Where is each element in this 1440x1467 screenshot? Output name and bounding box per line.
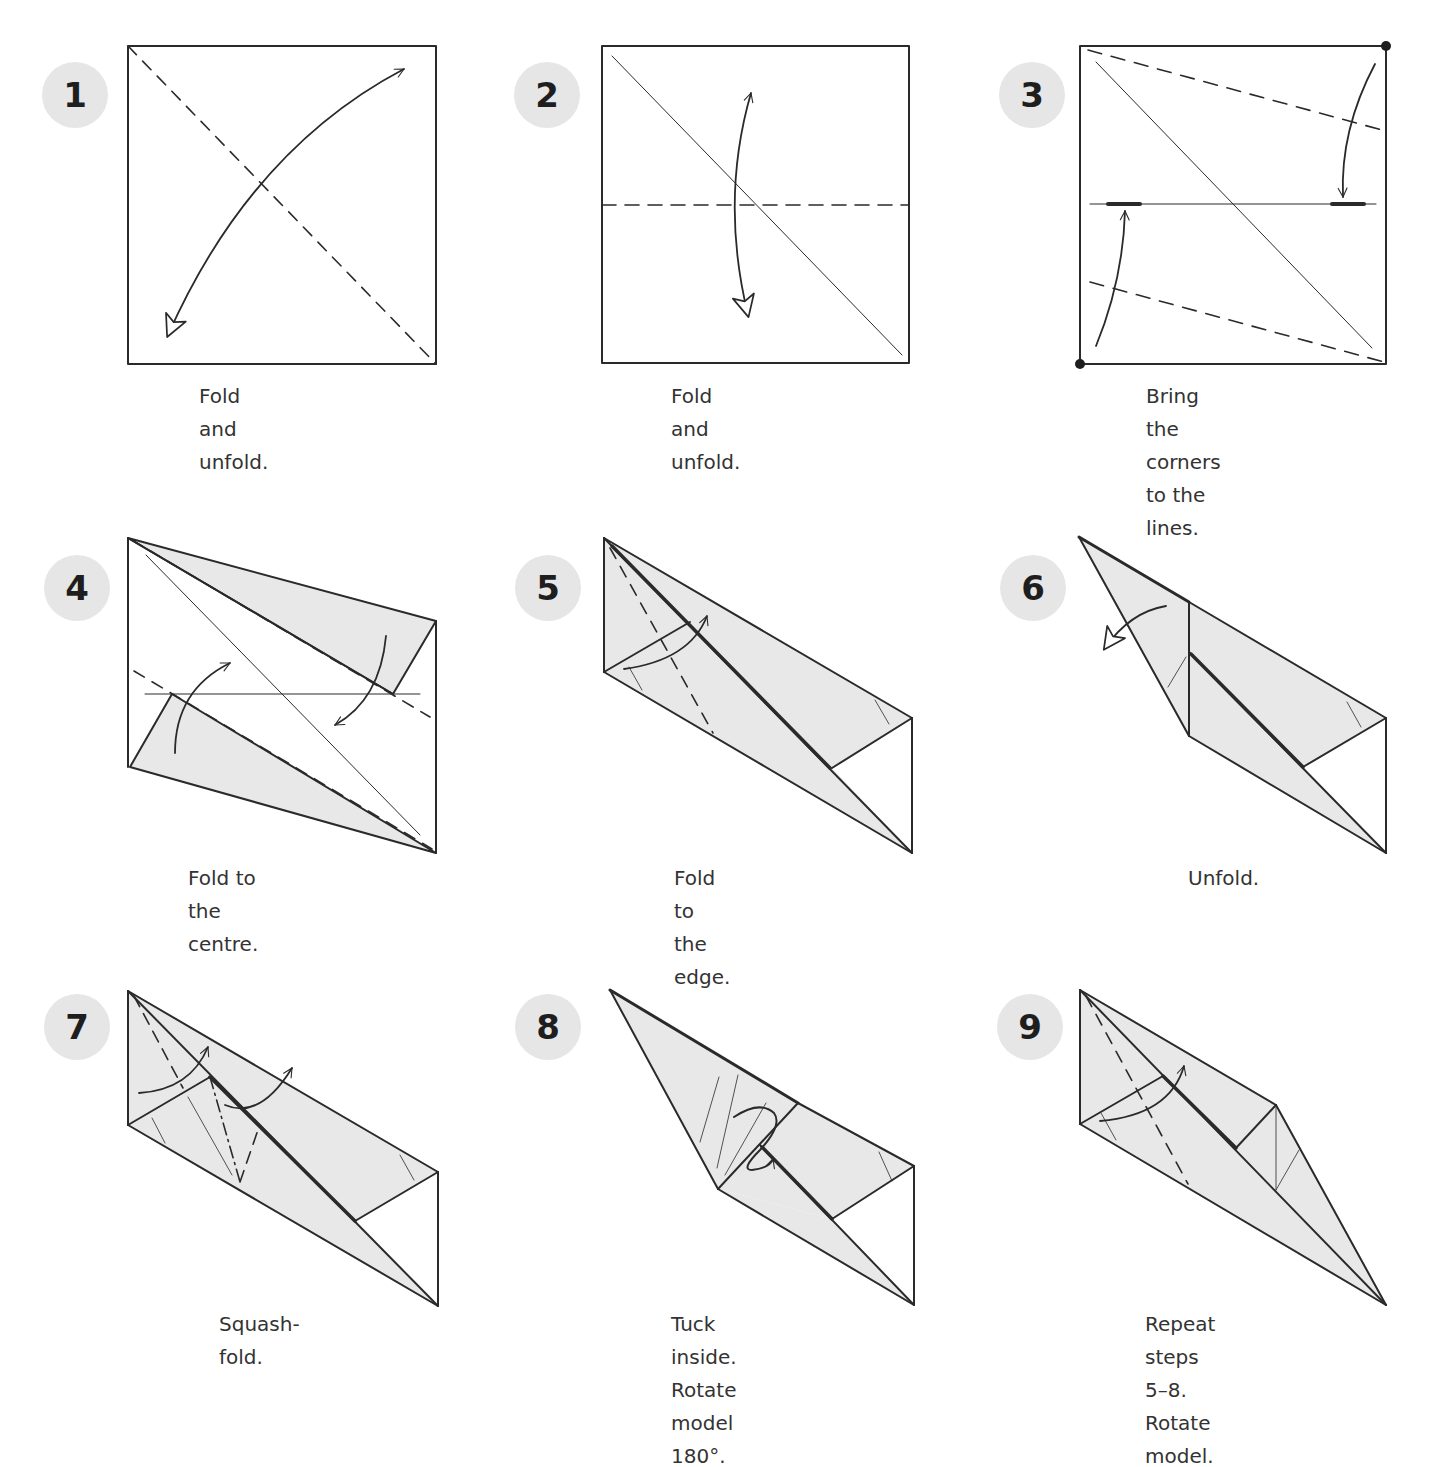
step-4-diagram bbox=[128, 538, 436, 853]
step-7-diagram bbox=[128, 991, 438, 1306]
valley-fold-line bbox=[128, 46, 436, 364]
fold-unfold-arrow bbox=[735, 93, 751, 315]
step-9-diagram bbox=[1080, 990, 1386, 1305]
folded-flap bbox=[128, 538, 436, 694]
valley-fold-line bbox=[1090, 282, 1384, 362]
corner-dot bbox=[1075, 359, 1085, 369]
fold-arrow bbox=[1096, 211, 1125, 346]
step-3-diagram bbox=[1075, 41, 1391, 369]
step-8-diagram bbox=[610, 990, 914, 1305]
valley-fold-line bbox=[1088, 50, 1382, 130]
folded-flap bbox=[130, 694, 436, 853]
corner-dot bbox=[1381, 41, 1391, 51]
step-1-diagram bbox=[128, 46, 436, 364]
step-2-diagram bbox=[602, 46, 909, 363]
fold-arrow bbox=[1343, 64, 1375, 197]
step-5-diagram bbox=[604, 538, 912, 853]
step-6-diagram bbox=[1079, 537, 1386, 853]
